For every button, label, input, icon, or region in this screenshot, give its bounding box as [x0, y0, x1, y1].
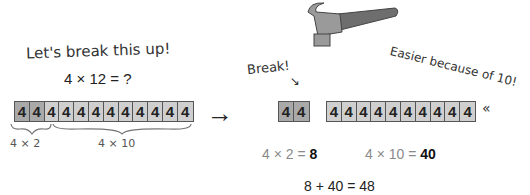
equation-small: 4 × 2 = 8 — [262, 146, 317, 162]
cell: 4 — [30, 102, 45, 121]
break-arrow-icon: ↘ — [290, 74, 300, 88]
cell: 4 — [416, 102, 431, 121]
lets-break-heading: Let's break this up! — [26, 39, 171, 62]
cell: 4 — [178, 102, 193, 121]
cell: 4 — [386, 102, 401, 121]
cell: 4 — [59, 102, 74, 121]
cell: 4 — [279, 102, 294, 121]
cell: 4 — [104, 102, 119, 121]
cell: 4 — [357, 102, 372, 121]
cell: 4 — [74, 102, 89, 121]
cell: 4 — [342, 102, 357, 121]
easier-label: Easier because of 10! — [389, 44, 519, 89]
cell: 4 — [89, 102, 104, 121]
equation-large-expr: 4 × 10 = — [365, 146, 420, 162]
cell: 4 — [431, 102, 446, 121]
cell: 4 — [401, 102, 416, 121]
equation-small-result: 8 — [309, 146, 317, 162]
cell: 4 — [445, 102, 460, 121]
cell: 4 — [460, 102, 475, 121]
cell: 4 — [133, 102, 148, 121]
cell: 4 — [327, 102, 342, 121]
cell: 4 — [45, 102, 60, 121]
brace-label-small: 4 × 2 — [10, 137, 40, 150]
break-label: Break! — [246, 58, 290, 77]
group-large-strip: 4 4 4 4 4 4 4 4 4 4 — [326, 101, 476, 122]
cell: 4 — [163, 102, 178, 121]
full-strip: 4 4 4 4 4 4 4 4 4 4 4 4 — [14, 101, 194, 122]
cell: 4 — [294, 102, 309, 121]
cell: 4 — [371, 102, 386, 121]
brace-icon — [8, 122, 198, 138]
right-arrow-icon: → — [207, 98, 233, 129]
group-small-strip: 4 4 — [278, 101, 310, 122]
cell: 4 — [119, 102, 134, 121]
total-equation: 8 + 40 = 48 — [304, 178, 375, 194]
cell: 4 — [15, 102, 30, 121]
easier-arrow-icon: « — [482, 100, 491, 116]
cell: 4 — [148, 102, 163, 121]
equation-large: 4 × 10 = 40 — [365, 146, 436, 162]
equation-small-expr: 4 × 2 = — [262, 146, 309, 162]
equation-large-result: 40 — [420, 146, 436, 162]
problem-equation: 4 × 12 = ? — [64, 70, 132, 87]
hammer-icon — [300, 0, 400, 50]
brace-label-large: 4 × 10 — [98, 137, 135, 150]
